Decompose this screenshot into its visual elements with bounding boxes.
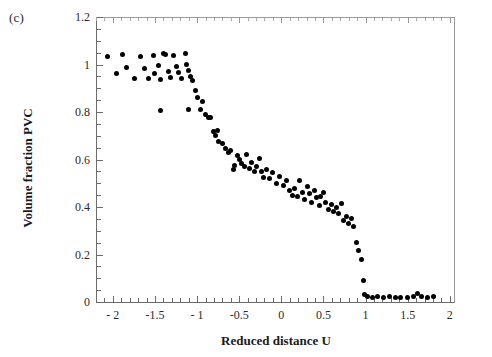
x-tick-top [231, 18, 232, 21]
x-tick-bottom [239, 296, 240, 302]
x-tick-top [290, 18, 291, 21]
x-tick-bottom [231, 298, 232, 302]
data-point [281, 183, 286, 188]
x-tick-top [197, 18, 198, 23]
y-tick [97, 207, 103, 208]
y-tick-label: 0.2 [75, 249, 90, 261]
data-point [257, 156, 262, 161]
data-point [215, 128, 220, 133]
data-point [292, 186, 297, 191]
top-frame-line [96, 17, 455, 18]
data-point [349, 216, 354, 221]
x-tick-top [113, 18, 114, 23]
x-tick-top [366, 18, 367, 23]
data-point [312, 188, 317, 193]
data-point [168, 75, 173, 80]
x-tick-top [298, 18, 299, 21]
y-tick-label: 0.8 [75, 106, 90, 118]
y-axis-tick-labels: 00.20.40.60.811.2 [56, 17, 90, 303]
x-tick-top [399, 18, 400, 21]
x-tick-top [239, 18, 240, 23]
x-axis-label: Reduced distance U [96, 333, 456, 349]
plot-area [96, 17, 455, 303]
data-point [431, 294, 436, 299]
data-point [190, 78, 195, 83]
x-tick-bottom [307, 298, 308, 302]
panel-label: (c) [9, 10, 24, 26]
data-point [393, 295, 398, 300]
data-point [295, 194, 300, 199]
data-point [198, 107, 203, 112]
data-point [252, 169, 257, 174]
y-tick [97, 290, 101, 291]
x-tick-bottom [180, 298, 181, 302]
x-tick-bottom [104, 298, 105, 302]
y-tick-label: 0.6 [75, 154, 90, 166]
x-tick-top [130, 18, 131, 21]
data-point [231, 167, 236, 172]
x-tick-bottom [323, 296, 324, 302]
x-tick-bottom [138, 298, 139, 302]
data-point [186, 107, 191, 112]
x-tick-bottom [450, 296, 451, 302]
x-tick-bottom [391, 298, 392, 302]
x-tick-bottom [214, 298, 215, 302]
data-point [259, 169, 264, 174]
y-tick [97, 29, 101, 30]
data-point [323, 200, 328, 205]
data-point [300, 190, 305, 195]
data-point [302, 197, 307, 202]
data-point [200, 99, 205, 104]
x-tick-bottom [113, 296, 114, 302]
y-tick [97, 88, 101, 89]
data-point [208, 115, 213, 120]
data-point [151, 53, 156, 58]
data-point [274, 181, 279, 186]
data-point [334, 205, 339, 210]
y-tick [97, 17, 103, 18]
x-tick-bottom [163, 298, 164, 302]
x-tick-bottom [273, 298, 274, 302]
y-tick-label: 1 [84, 59, 90, 71]
x-tick-label: - 1 [177, 309, 217, 322]
y-tick-label: 0 [84, 296, 90, 308]
x-tick-label: -0.5 [219, 309, 259, 322]
y-tick [97, 41, 101, 42]
y-tick-label: 0.4 [75, 201, 90, 213]
data-point [152, 71, 157, 76]
data-point [321, 190, 326, 195]
x-tick-top [408, 18, 409, 23]
y-axis-label: Volume fraction PVC [20, 78, 36, 258]
x-tick-top [340, 18, 341, 21]
x-tick-top [180, 18, 181, 21]
data-point [195, 95, 200, 100]
y-tick [97, 171, 101, 172]
x-tick-bottom [147, 298, 148, 302]
data-point [132, 76, 137, 81]
y-tick [97, 231, 101, 232]
data-point [193, 88, 198, 93]
data-point [398, 295, 403, 300]
y-tick [97, 148, 101, 149]
data-point [419, 294, 424, 299]
data-point [284, 178, 289, 183]
x-tick-top [256, 18, 257, 21]
x-tick-top [349, 18, 350, 21]
x-tick-bottom [130, 298, 131, 302]
x-tick-bottom [189, 298, 190, 302]
x-tick-bottom [222, 298, 223, 302]
data-point [186, 68, 191, 73]
x-tick-top [104, 18, 105, 21]
data-point [277, 174, 282, 179]
x-tick-top [147, 18, 148, 21]
data-point [425, 295, 430, 300]
y-tick [97, 112, 103, 113]
x-tick-label: 1.5 [388, 309, 428, 322]
x-tick-bottom [416, 298, 417, 302]
x-tick-top [172, 18, 173, 21]
data-point [166, 69, 171, 74]
data-point [267, 176, 272, 181]
x-tick-bottom [264, 298, 265, 302]
x-tick-bottom [349, 298, 350, 302]
data-point [339, 201, 344, 206]
